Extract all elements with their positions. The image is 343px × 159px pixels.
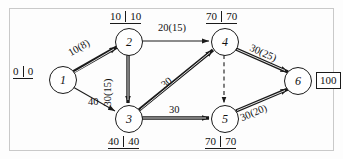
event-time-node-3-late: 40 [128,136,139,147]
edge-label-2-3: 30(15) [103,79,114,107]
edge-label-1-3: 40 [88,97,99,108]
event-time-separator [221,11,222,22]
node-1[interactable]: 1 [49,66,77,94]
project-duration-box: 100 [316,72,341,89]
node-6[interactable]: 6 [284,67,312,95]
node-4-label: 4 [222,36,228,48]
node-3-label: 3 [126,113,132,125]
network-diagram-canvas: 1 2 3 4 5 6 10(8) 40 20(15) 30(15) 30 30… [0,0,343,159]
node-4[interactable]: 4 [211,28,239,56]
event-time-node-1: 0 0 [13,66,33,79]
event-time-separator [123,136,124,147]
event-time-node-2-late: 10 [130,11,141,22]
node-2[interactable]: 2 [115,28,143,56]
event-time-node-4: 70 70 [206,11,237,24]
event-time-separator [125,11,126,22]
event-time-node-5-early: 70 [205,136,216,147]
event-time-node-2: 10 10 [110,11,141,24]
node-5-label: 5 [222,113,228,125]
event-time-node-3: 40 40 [108,136,139,149]
event-time-node-2-early: 10 [110,11,121,22]
node-5[interactable]: 5 [211,105,239,133]
node-1-label: 1 [60,74,66,86]
event-time-node-3-early: 40 [108,136,119,147]
event-time-node-4-late: 70 [226,11,237,22]
event-time-separator [23,66,24,77]
node-6-label: 6 [295,75,301,87]
edge-label-3-5: 30 [169,105,180,116]
event-time-separator [220,136,221,147]
node-3[interactable]: 3 [115,105,143,133]
event-time-node-5-late: 70 [225,136,236,147]
node-2-label: 2 [126,36,132,48]
edge-3-4 [139,50,213,110]
event-time-node-4-early: 70 [206,11,217,22]
event-time-node-1-late: 0 [28,66,34,77]
event-time-node-5: 70 70 [205,136,236,149]
edge-label-2-4: 20(15) [158,23,186,34]
event-time-node-1-early: 0 [13,66,19,77]
